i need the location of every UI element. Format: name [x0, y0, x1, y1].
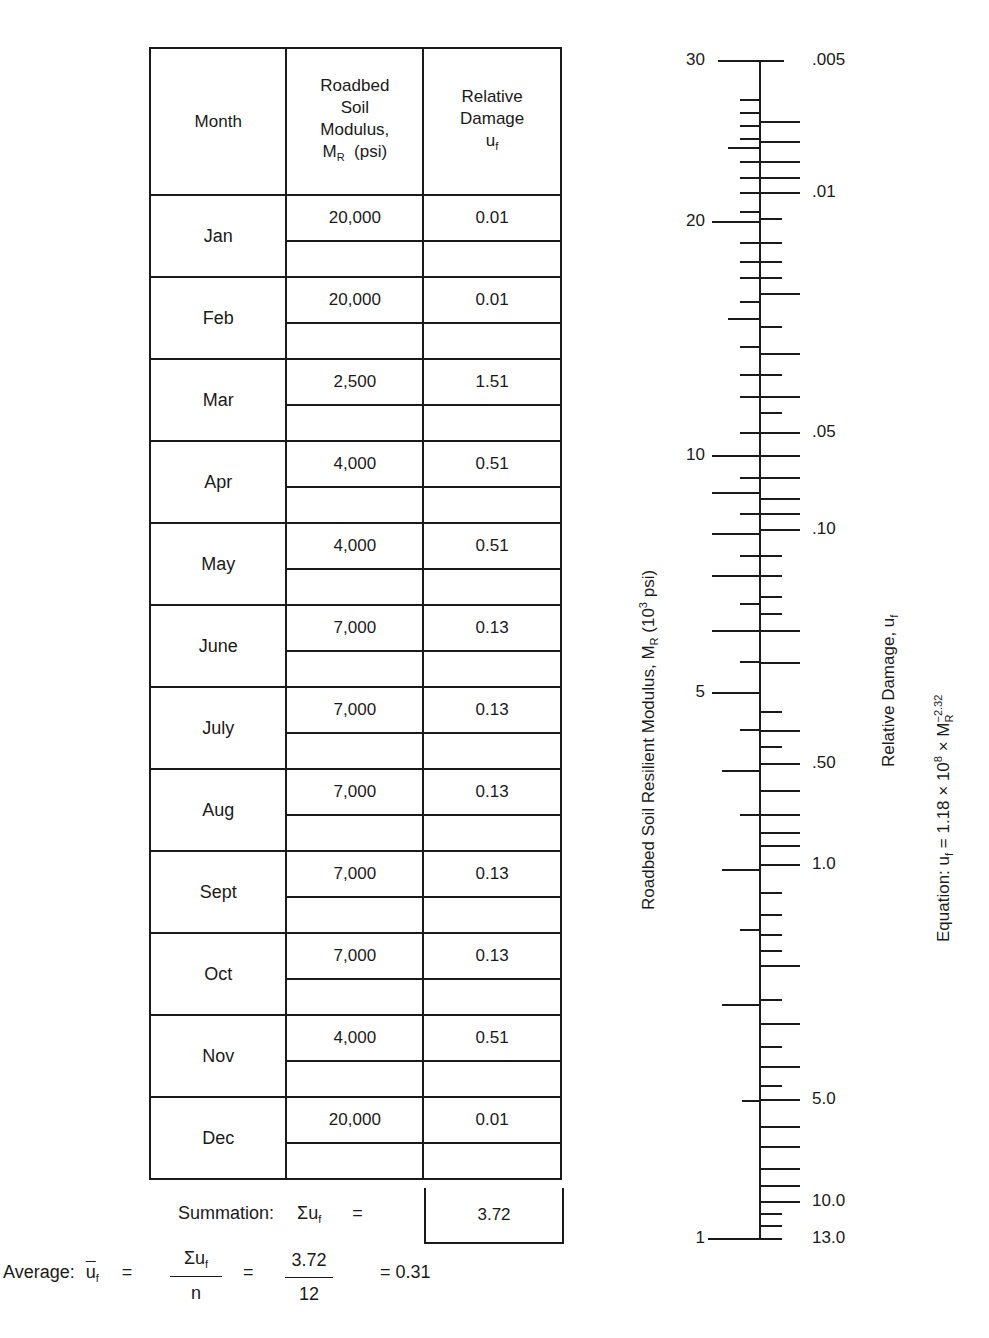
right-axis-title: Relative Damage, uf — [879, 615, 900, 767]
right-axis-title-text: Relative Damage, u — [879, 618, 898, 767]
equation-sup-exp: −2.32 — [932, 695, 944, 723]
left-scale-label: 30 — [686, 50, 705, 70]
right-axis-title-sub: f — [888, 615, 900, 618]
left-scale-label: 20 — [686, 211, 705, 231]
left-scale-label: 5 — [696, 682, 705, 702]
right-scale-label: .005 — [812, 50, 845, 70]
left-axis-title-unit-sup: 3 — [637, 602, 649, 608]
equation-sub-f: f — [943, 853, 955, 856]
equation-sub-r: R — [943, 715, 955, 723]
left-axis-title-sub: R — [648, 637, 660, 645]
right-scale-label: 5.0 — [812, 1089, 836, 1109]
right-scale-label: 13.0 — [812, 1228, 845, 1248]
equation-sup-8: 8 — [932, 756, 944, 762]
equation-mid: = 1.18 × 10 — [934, 762, 953, 853]
right-scale-label: .10 — [812, 519, 836, 539]
left-axis-title-unit-post: psi) — [639, 570, 658, 602]
right-scale-label: 1.0 — [812, 854, 836, 874]
left-axis-title-unit-pre: (10 — [639, 608, 658, 637]
left-axis-title: Roadbed Soil Resilient Modulus, MR (103 … — [637, 570, 660, 910]
left-axis-title-text: Roadbed Soil Resilient Modulus, M — [639, 645, 658, 910]
equation-pre: Equation: u — [934, 856, 953, 942]
left-scale-label: 1 — [696, 1228, 705, 1248]
nomograph-scale — [0, 0, 989, 1338]
right-scale-label: .01 — [812, 182, 836, 202]
left-scale-label: 10 — [686, 445, 705, 465]
equation: Equation: uf = 1.18 × 108 × MR−2.32 — [932, 695, 955, 942]
right-scale-label: 10.0 — [812, 1191, 845, 1211]
right-scale-label: .50 — [812, 753, 836, 773]
right-scale-label: .05 — [812, 422, 836, 442]
equation-x: × M — [934, 723, 953, 757]
